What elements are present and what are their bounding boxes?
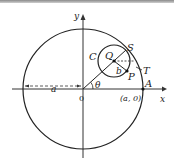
label-P: P (127, 71, 135, 82)
y-axis-arrow-icon (81, 14, 86, 20)
label-b: b (116, 66, 122, 76)
label-origin: 0 (79, 94, 84, 103)
label-y: y (73, 11, 80, 21)
label-C: C (89, 51, 97, 62)
label-A: A (144, 78, 152, 89)
label-x: x (160, 94, 165, 104)
label-a0: (a, 0) (120, 94, 141, 103)
epicycloid-diagram: y x 0 a θ C Q S T P A b (a, 0) (0, 0, 174, 164)
label-a: a (51, 84, 56, 94)
x-axis-arrow-icon (162, 87, 167, 92)
label-S: S (127, 42, 134, 53)
label-Q: Q (105, 50, 113, 61)
theta-arc (91, 83, 93, 90)
label-theta: θ (95, 80, 101, 90)
label-T: T (143, 65, 151, 76)
